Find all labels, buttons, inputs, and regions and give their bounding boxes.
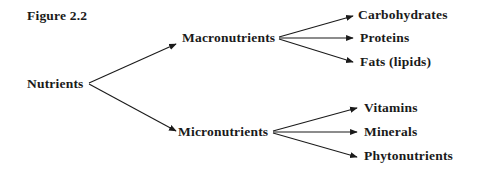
arrow-micro-to-phytonutrients: [273, 133, 357, 157]
arrow-micro-to-vitamins: [273, 108, 357, 131]
figure-title: Figure 2.2: [27, 8, 87, 24]
node-minerals: Minerals: [364, 124, 417, 140]
node-macronutrients: Macronutrients: [182, 30, 275, 46]
arrow-nutrients-to-macronutrients: [89, 44, 176, 83]
node-proteins: Proteins: [360, 30, 409, 46]
node-nutrients: Nutrients: [27, 76, 84, 92]
node-micronutrients: Micronutrients: [178, 124, 268, 140]
arrow-macro-to-carbohydrates: [279, 16, 353, 37]
arrow-macro-to-fats: [279, 39, 353, 62]
node-fats-lipids: Fats (lipids): [360, 54, 431, 70]
arrow-nutrients-to-micronutrients: [89, 84, 176, 131]
node-vitamins: Vitamins: [364, 100, 418, 116]
node-phytonutrients: Phytonutrients: [364, 148, 453, 164]
node-carbohydrates: Carbohydrates: [358, 7, 448, 23]
